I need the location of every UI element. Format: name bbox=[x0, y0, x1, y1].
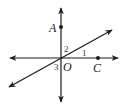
angle-2-label: 2 bbox=[64, 44, 69, 54]
geometry-diagram: A O C 1 2 3 bbox=[0, 0, 125, 110]
angle-3-label: 3 bbox=[54, 62, 59, 72]
point-c-dot bbox=[96, 56, 100, 60]
angle-1-label: 1 bbox=[82, 48, 87, 58]
point-c-label: C bbox=[93, 61, 102, 75]
point-o-label: O bbox=[63, 60, 72, 74]
point-a-label: A bbox=[48, 21, 57, 35]
point-a-dot bbox=[59, 25, 63, 29]
